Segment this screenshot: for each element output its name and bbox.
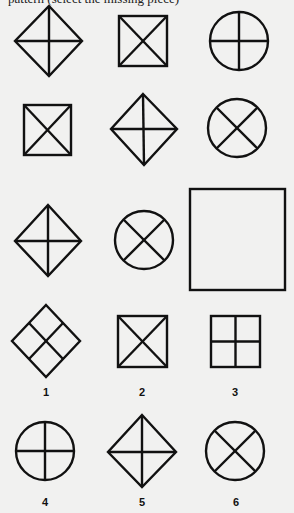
option-1-label[interactable]: 1 <box>31 386 61 398</box>
option-4-circle-cross[interactable] <box>16 422 74 480</box>
puzzle-figure <box>0 0 294 513</box>
matrix-cell-r1c2-square-x <box>119 16 167 66</box>
option-5-diamond-cross[interactable] <box>108 415 176 487</box>
matrix-cell-r2c3-circle-x <box>208 99 266 157</box>
option-5-label[interactable]: 5 <box>127 496 157 508</box>
matrix-cell-r3c1-diamond-cross <box>15 205 81 276</box>
option-2-label[interactable]: 2 <box>127 386 157 398</box>
matrix-cell-r3c3-missing-blank <box>190 189 285 290</box>
matrix-cell-r2c2-diamond-cross <box>111 94 177 165</box>
option-6-label[interactable]: 6 <box>221 496 251 508</box>
option-1-diamond-grid[interactable] <box>12 305 80 377</box>
option-3-square-cross[interactable] <box>211 316 260 367</box>
matrix-cell-r1c3-circle-cross <box>210 12 268 70</box>
matrix-cell-r3c2-circle-x <box>115 211 173 269</box>
option-3-label[interactable]: 3 <box>220 386 250 398</box>
option-6-circle-x[interactable] <box>206 422 264 480</box>
matrix-cell-r2c1-square-x <box>24 105 71 155</box>
option-4-label[interactable]: 4 <box>30 496 60 508</box>
matrix-cell-r1c1-diamond-cross <box>15 6 82 76</box>
option-2-square-x[interactable] <box>118 316 167 367</box>
